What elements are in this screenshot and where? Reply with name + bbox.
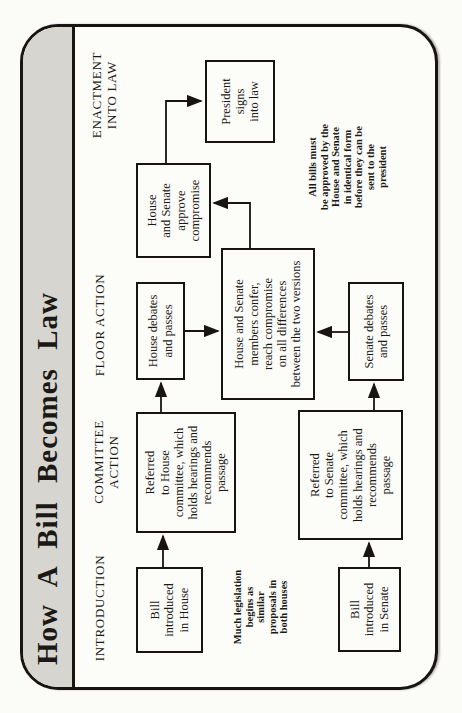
arrow-approve-to-president (166, 101, 201, 163)
arrow-confer-to-approve (214, 203, 250, 248)
flow-connectors (0, 0, 462, 713)
rotated-diagram-canvas: How A Bill Becomes Law INTRODUCTION COMM… (0, 0, 462, 713)
scanned-page: { "title": "How A Bill Becomes Law", "co… (0, 0, 462, 713)
